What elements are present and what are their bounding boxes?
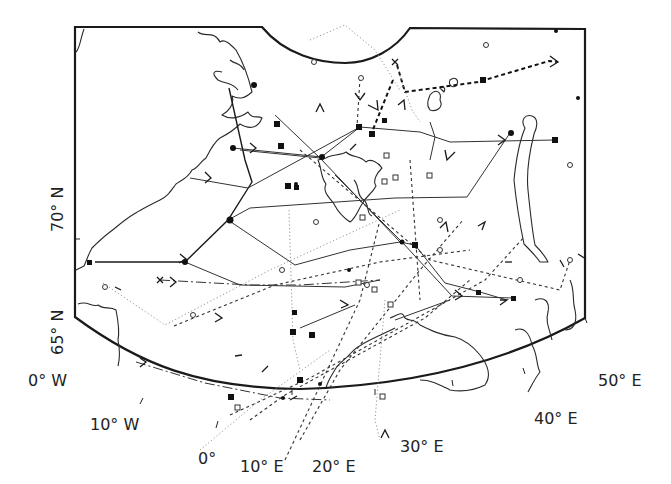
coastline-white-sea (515, 329, 540, 392)
lon-ticks (75, 239, 587, 428)
lon-label-10w: 10° W (90, 415, 139, 434)
lon-label-0: 0° (198, 449, 216, 468)
coastline-svalbard (318, 152, 382, 222)
coastline-norway-west (326, 328, 395, 388)
lat-label-65n: 65° N (48, 310, 67, 355)
lon-label-40e: 40° E (534, 409, 578, 428)
lon-label-50e: 50° E (598, 371, 642, 390)
coastline-scandinavia-north (76, 32, 262, 270)
tracks (95, 25, 570, 460)
lat-label-70n: 70° N (48, 187, 67, 232)
map-frame (75, 27, 585, 389)
coastline-greenland (76, 29, 84, 52)
map-figure: 70° N 65° N 0° W 10° W 0° 10° E 20° E 30… (0, 0, 671, 484)
coastline-novaya-zemlya (514, 116, 548, 262)
coastline-franz-josef (428, 91, 441, 110)
coastline-kanin (535, 280, 576, 340)
lon-label-0w: 0° W (28, 371, 67, 390)
track-arrows (115, 56, 586, 438)
lon-label-30e: 30° E (400, 437, 444, 456)
lon-label-10e: 10° E (240, 457, 284, 476)
lon-label-20e: 20° E (312, 457, 356, 476)
fjord-1 (214, 71, 238, 90)
